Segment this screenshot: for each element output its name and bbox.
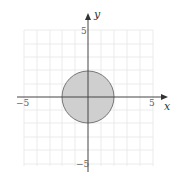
y-tick-5: 5 xyxy=(81,26,87,36)
x-tick-5: 5 xyxy=(149,98,155,108)
x-tick-neg5: −5 xyxy=(16,98,30,108)
y-tick-neg5: −5 xyxy=(76,159,90,169)
x-axis-label: x xyxy=(164,100,171,113)
coordinate-plane: x y −5 5 5 −5 xyxy=(0,0,183,180)
y-axis-label: y xyxy=(93,8,101,21)
